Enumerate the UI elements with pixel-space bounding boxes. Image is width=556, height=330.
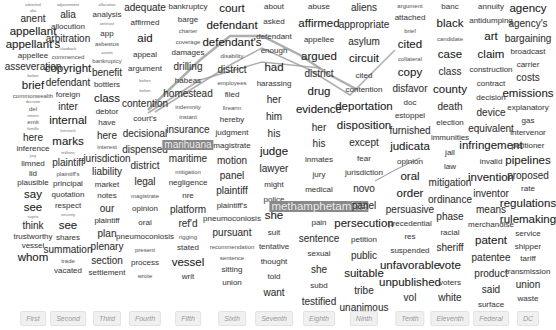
column-label-ninth[interactable]: Ninth [350,311,378,326]
word-item[interactable]: respect [55,202,81,210]
word-item[interactable]: firearm [223,105,242,111]
word-item[interactable]: subd [310,282,327,290]
word-item[interactable]: plaintiff [216,186,248,196]
word-item[interactable]: brief [404,28,416,34]
column-label-federal[interactable]: Federal [473,311,509,326]
word-item[interactable]: gas [522,117,535,125]
word-item[interactable]: novo [353,184,375,194]
word-item[interactable]: alia [60,10,76,20]
column-label-dc[interactable]: DC [517,311,539,326]
word-item[interactable]: livestock [60,129,75,133]
word-item[interactable]: rate [521,185,535,193]
word-item[interactable]: persuasive [386,205,434,215]
word-item[interactable]: sexual [307,250,330,258]
word-item[interactable]: shares [56,234,80,242]
word-item[interactable]: del [29,106,37,112]
word-item[interactable]: asylum [348,37,380,47]
word-item[interactable]: notes [97,192,117,200]
word-item[interactable]: panel [220,171,244,181]
word-item[interactable]: decisional [123,129,167,139]
word-item[interactable]: judgment [216,129,249,137]
word-item[interactable]: habeas [175,77,201,85]
word-item[interactable]: order [397,188,424,200]
word-item[interactable]: trade [61,258,75,264]
word-item[interactable]: damages [172,49,205,57]
word-item[interactable]: drug [307,86,330,98]
word-item[interactable]: class [439,67,462,77]
word-item[interactable]: plaintiff [52,158,84,168]
column-label-seventh[interactable]: Seventh [255,311,293,326]
word-item[interactable]: mitigation [175,169,201,175]
word-item[interactable]: disfavor [392,84,427,94]
word-item[interactable]: our [100,204,114,214]
word-item[interactable]: suprie [28,215,39,219]
word-item[interactable]: magistrate [131,193,159,199]
word-item[interactable]: said [482,285,500,295]
word-item[interactable]: his [313,139,326,149]
word-item[interactable]: broadcast [510,48,545,56]
word-item[interactable]: furnished [389,126,430,136]
word-item[interactable]: suitable [344,268,384,280]
word-item[interactable]: here [97,131,117,141]
word-item[interactable]: suspended [390,247,429,255]
word-item[interactable]: emissions [502,88,553,100]
word-item[interactable]: assets [101,51,113,55]
word-item[interactable]: defendant [206,20,257,32]
word-item[interactable]: res [404,233,415,241]
word-item[interactable]: barge [178,16,198,24]
column-label-sixth[interactable]: Sixth [218,311,246,326]
word-item[interactable]: plan [98,229,117,239]
word-item[interactable]: precedential [388,220,432,228]
word-item[interactable]: petitioner [512,142,545,150]
word-item[interactable]: stated [177,244,199,252]
word-item[interactable]: argued [301,51,337,63]
word-item[interactable]: allocation [99,3,116,7]
word-item[interactable]: vote [439,260,461,272]
word-item[interactable]: famillo [27,127,39,131]
word-item[interactable]: magistrate [213,142,250,150]
word-item[interactable]: anent [20,14,45,24]
word-item[interactable]: platform [170,205,206,215]
word-item[interactable]: judicata [390,141,430,153]
word-item[interactable]: vacated [54,267,82,275]
word-item[interactable]: voters [439,279,461,287]
word-item[interactable]: debtor [96,108,119,116]
column-label-tenth[interactable]: Tenth [395,311,424,326]
word-item[interactable]: law [444,163,456,171]
word-item[interactable]: art [484,31,497,43]
word-item[interactable]: limned [21,160,45,168]
word-item[interactable]: cited [356,72,373,80]
word-item[interactable]: emerit [27,114,38,118]
word-item[interactable]: jury [313,171,326,179]
word-item[interactable]: vessel [172,257,205,269]
word-item[interactable]: agency's [508,19,547,29]
word-item[interactable]: charter [179,28,198,34]
column-label-fifth[interactable]: Fifth [175,311,201,326]
word-item[interactable]: adequate [124,3,166,13]
word-item[interactable]: banc [441,3,458,11]
word-item[interactable]: estoppel [395,112,425,120]
word-item[interactable]: tribe [354,286,373,296]
word-item[interactable]: clawback [60,47,76,51]
word-item[interactable]: brief [22,80,44,92]
word-item[interactable]: opinion [397,158,423,166]
column-label-eleventh[interactable]: Eleventh [430,311,469,326]
word-item[interactable]: principal [53,180,83,188]
word-item[interactable]: her [312,123,326,133]
word-item[interactable]: think [22,221,43,231]
column-label-eighth[interactable]: Eighth [303,311,335,326]
column-label-third[interactable]: Third [93,311,121,326]
word-item[interactable]: panel [352,201,376,211]
word-item[interactable]: carrier [517,61,540,69]
word-item[interactable]: app [100,30,113,38]
word-item[interactable]: pneumoconiosis [203,215,261,223]
word-item[interactable]: plaintiff's [217,202,248,210]
word-item[interactable]: argument [397,3,422,9]
word-item[interactable]: jurisdiction [345,169,383,177]
word-item[interactable]: service [515,230,540,238]
word-item[interactable]: decision [26,100,41,104]
word-item[interactable]: inter [58,102,77,112]
word-item[interactable]: plaintiff's [56,171,79,177]
word-item[interactable]: except [349,138,378,148]
word-item[interactable]: wrote [138,273,153,279]
